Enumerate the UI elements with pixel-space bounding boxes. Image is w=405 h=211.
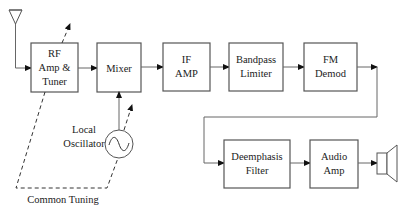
fm-receiver-block-diagram: RF Amp & Tuner Mixer IF AMP Bandpass Lim…	[0, 0, 405, 211]
block-label: Mixer	[106, 63, 132, 74]
block-bandpass-limiter: Bandpass Limiter	[229, 43, 283, 91]
block-label: Tuner	[42, 76, 67, 87]
block-deemphasis-filter: Deemphasis Filter	[224, 140, 290, 188]
block-label: Bandpass	[236, 54, 276, 65]
antenna-wire	[16, 24, 32, 68]
antenna-icon	[9, 10, 22, 24]
block-audio-amp: Audio Amp	[310, 140, 358, 188]
block-mixer: Mixer	[97, 43, 141, 92]
block-if-amp: IF AMP	[163, 43, 210, 91]
block-label: IF	[182, 54, 191, 65]
block-fm-demod: FM Demod	[304, 43, 357, 91]
block-label: Amp &	[39, 62, 71, 73]
block-label: FM	[323, 54, 339, 65]
block-label: Limiter	[240, 68, 272, 79]
oscillator-label: Local	[72, 124, 96, 135]
block-label: Audio	[321, 151, 347, 162]
local-oscillator	[105, 130, 133, 158]
block-label: AMP	[175, 68, 198, 79]
block-label: RF	[48, 48, 61, 59]
tuning-arrow-rf	[62, 24, 70, 43]
speaker-icon	[377, 145, 397, 182]
block-label: Amp	[324, 165, 345, 176]
block-label: Demod	[315, 68, 347, 79]
block-label: Filter	[246, 165, 269, 176]
block-rf-amp-tuner: RF Amp & Tuner	[31, 43, 78, 92]
block-label: Deemphasis	[231, 151, 282, 162]
common-tuning-label: Common Tuning	[27, 194, 99, 205]
tuning-arrow-oscillator	[124, 105, 132, 130]
oscillator-label: Oscillator	[63, 138, 105, 149]
